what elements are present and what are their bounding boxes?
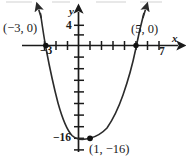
axis-label-x: x [172,33,178,44]
axis-label-y: y [69,6,74,17]
tick-label-x-7: 7 [159,46,165,58]
tick-label-x-neg3: −3 [40,45,52,57]
label-x-intercept-right: (5, 0) [131,23,158,36]
parabola-curve [41,14,144,140]
label-x-intercept-left: (−3, 0) [3,22,37,35]
point-marker-vertex [87,135,93,141]
point-marker-x-intercept-right [133,43,138,48]
tick-label-y-neg16: −16 [53,132,71,144]
tick-label-y-4: 4 [66,20,72,32]
label-vertex: (1, −16) [89,143,129,156]
figure-canvas: (−3, 0) (5, 0) (1, −16) 4 −16 −3 7 y x [0,0,186,156]
top-edge-artifacts [6,1,162,3]
